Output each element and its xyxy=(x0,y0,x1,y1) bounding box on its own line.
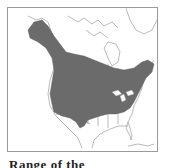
range-map xyxy=(8,8,158,152)
map-caption: Range of the xyxy=(9,157,85,168)
map-frame xyxy=(7,7,158,152)
range-shading xyxy=(28,20,154,128)
